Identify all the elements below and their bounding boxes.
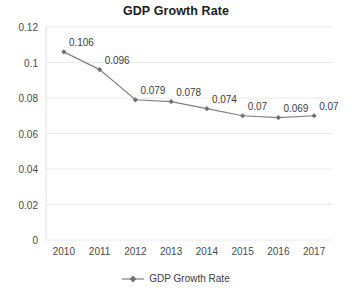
y-axis-tick-label: 0.02 — [4, 199, 38, 210]
data-point-value-label: 0.106 — [69, 37, 94, 48]
data-point-value-label: 0.078 — [176, 87, 201, 98]
data-point-value-label: 0.096 — [105, 55, 130, 66]
chart-container: GDP Growth Rate 00.020.040.060.080.10.12… — [0, 0, 352, 292]
data-point-marker[interactable] — [204, 106, 209, 111]
series-line-gdp-growth-rate — [64, 52, 314, 118]
x-axis-tick-label: 2012 — [115, 246, 155, 257]
x-axis-tick-label: 2013 — [151, 246, 191, 257]
data-point-marker[interactable] — [169, 99, 174, 104]
y-axis-tick-label: 0.04 — [4, 164, 38, 175]
data-point-marker[interactable] — [61, 49, 66, 54]
data-point-value-label: 0.07 — [319, 101, 338, 112]
gridlines-group — [46, 27, 332, 240]
legend-marker-icon — [122, 274, 144, 284]
y-axis-tick-label: 0.12 — [4, 22, 38, 33]
data-point-value-label: 0.074 — [212, 94, 237, 105]
y-axis-tick-label: 0.1 — [4, 57, 38, 68]
y-axis-tick-label: 0.08 — [4, 93, 38, 104]
x-axis-tick-label: 2011 — [80, 246, 120, 257]
y-axis-tick-label: 0.06 — [4, 128, 38, 139]
data-point-marker[interactable] — [312, 113, 317, 118]
x-axis-tick-label: 2010 — [44, 246, 84, 257]
x-axis-tick-label: 2015 — [223, 246, 263, 257]
data-point-value-label: 0.069 — [283, 103, 308, 114]
data-point-marker[interactable] — [240, 113, 245, 118]
data-point-marker[interactable] — [276, 115, 281, 120]
y-axis-tick-label: 0 — [4, 235, 38, 246]
x-axis-tick-label: 2017 — [294, 246, 334, 257]
data-point-value-label: 0.079 — [140, 85, 165, 96]
legend-item-label: GDP Growth Rate — [149, 273, 229, 284]
series-markers-group — [61, 49, 316, 120]
data-point-value-label: 0.07 — [248, 101, 267, 112]
x-axis-tick-label: 2014 — [187, 246, 227, 257]
x-axis-tick-label: 2016 — [258, 246, 298, 257]
chart-legend: GDP Growth Rate — [0, 273, 352, 284]
